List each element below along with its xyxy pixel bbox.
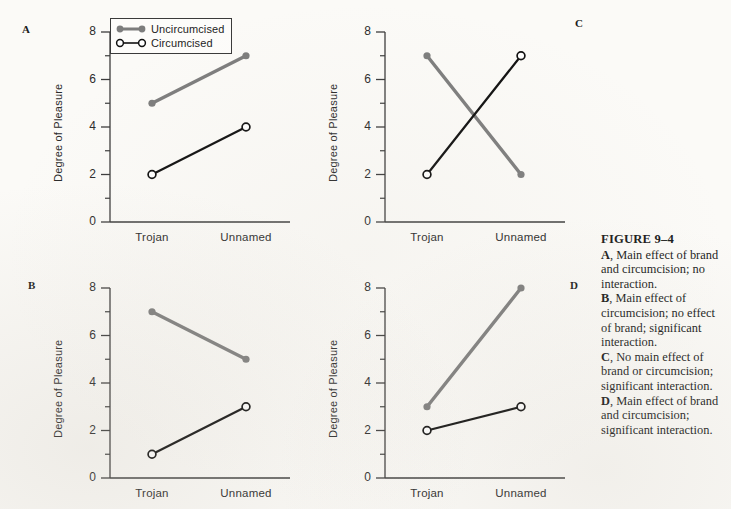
panel-d: D Degree of Pleasure 02468TrojanUnnamed	[275, 256, 595, 506]
x-tick-label: Unnamed	[481, 231, 561, 243]
series-line	[427, 288, 521, 407]
data-point	[242, 356, 249, 363]
data-point	[517, 171, 524, 178]
chart-svg	[275, 256, 575, 506]
series-line	[152, 312, 246, 360]
y-tick-label: 2	[355, 423, 371, 437]
figure-caption-title: FIGURE 9–4	[601, 232, 725, 247]
caption-letter-a: A	[601, 248, 610, 262]
y-tick-label: 2	[80, 167, 96, 181]
caption-entry-a: A, Main effect of brand and circumcision…	[601, 248, 725, 292]
data-point	[423, 427, 431, 435]
x-tick-label: Trojan	[387, 231, 467, 243]
y-tick-label: 6	[355, 328, 371, 342]
data-point	[517, 284, 524, 291]
caption-text-d: , Main effect of brand and circumcision;…	[601, 394, 718, 437]
legend-marker-filled-circle-icon	[116, 23, 146, 35]
data-point	[242, 123, 250, 131]
y-tick-label: 8	[355, 24, 371, 38]
series-line	[152, 56, 246, 104]
data-point	[148, 308, 155, 315]
x-tick-label: Trojan	[112, 231, 192, 243]
y-tick-label: 8	[80, 280, 96, 294]
data-point	[517, 403, 525, 411]
y-tick-label: 8	[355, 280, 371, 294]
chart-svg	[275, 0, 575, 250]
y-tick-label: 0	[80, 470, 96, 484]
y-tick-label: 0	[355, 214, 371, 228]
plot-area-c	[275, 0, 575, 250]
x-tick-label: Unnamed	[481, 487, 561, 499]
caption-entry-b: B, Main effect of circumcision; no effec…	[601, 291, 725, 349]
legend-marker-open-circle-icon	[116, 37, 146, 49]
legend-label-circumcised: Circumcised	[151, 37, 213, 49]
caption-entry-c: C, No main effect of brand or circumcisi…	[601, 350, 725, 394]
series-uncircumcised	[148, 308, 249, 363]
panel-c: C Degree of Pleasure 02468TrojanUnnamed	[275, 0, 595, 250]
series-line	[152, 407, 246, 455]
y-tick-label: 4	[355, 375, 371, 389]
data-point	[242, 403, 250, 411]
panel-a: A Degree of Pleasure Uncircumcised Circu…	[0, 0, 300, 250]
figure-page: A Degree of Pleasure Uncircumcised Circu…	[0, 0, 731, 509]
y-tick-label: 0	[355, 470, 371, 484]
x-tick-label: Unnamed	[206, 231, 286, 243]
series-circumcised	[148, 403, 250, 458]
figure-caption: FIGURE 9–4 A, Main effect of brand and c…	[601, 232, 725, 437]
legend-a: Uncircumcised Circumcised	[110, 18, 232, 54]
y-tick-label: 4	[80, 375, 96, 389]
chart-svg	[0, 256, 300, 506]
caption-letter-d: D	[601, 394, 610, 408]
data-point	[148, 171, 156, 179]
y-tick-label: 0	[80, 214, 96, 228]
y-tick-label: 4	[355, 119, 371, 133]
series-uncircumcised	[423, 284, 524, 410]
caption-text-b: , Main effect of circumcision; no effect…	[601, 291, 715, 349]
y-tick-label: 2	[80, 423, 96, 437]
series-line	[152, 127, 246, 175]
y-tick-label: 8	[80, 24, 96, 38]
y-tick-label: 6	[80, 328, 96, 342]
caption-text-a: , Main effect of brand and circumcision;…	[601, 248, 718, 291]
series-line	[427, 407, 521, 431]
data-point	[423, 403, 430, 410]
legend-item-circumcised: Circumcised	[116, 36, 224, 50]
series-uncircumcised	[148, 52, 249, 107]
caption-letter-c: C	[601, 350, 610, 364]
y-tick-label: 6	[355, 72, 371, 86]
panel-letter-c: C	[575, 17, 583, 29]
caption-entry-d: D, Main effect of brand and circumcision…	[601, 394, 725, 438]
x-tick-label: Trojan	[387, 487, 467, 499]
data-point	[517, 52, 525, 60]
series-circumcised	[423, 403, 525, 435]
data-point	[242, 52, 249, 59]
series-circumcised	[148, 123, 250, 178]
data-point	[148, 450, 156, 458]
y-tick-label: 4	[80, 119, 96, 133]
x-tick-label: Unnamed	[206, 487, 286, 499]
data-point	[423, 171, 431, 179]
data-point	[148, 100, 155, 107]
plot-area-b	[0, 256, 300, 506]
y-tick-label: 2	[355, 167, 371, 181]
y-tick-label: 6	[80, 72, 96, 86]
data-point	[423, 52, 430, 59]
plot-area-d	[275, 256, 575, 506]
legend-item-uncircumcised: Uncircumcised	[116, 22, 224, 36]
panel-b: B Degree of Pleasure 02468TrojanUnnamed	[0, 256, 300, 506]
legend-label-uncircumcised: Uncircumcised	[151, 23, 224, 35]
caption-text-c: , No main effect of brand or circumcisio…	[601, 350, 713, 393]
x-tick-label: Trojan	[112, 487, 192, 499]
